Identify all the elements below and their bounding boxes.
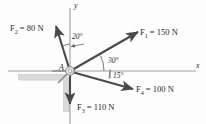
angle-arc-30 xyxy=(101,56,105,72)
force-diagram-canvas: y x A F2 = 80 N F1 = 150 N F4 = 100 N F3… xyxy=(0,0,206,124)
angle-label-30: 30° xyxy=(108,57,119,65)
angle-leader-20 xyxy=(71,44,84,47)
force-f3-magnitude: 110 xyxy=(94,102,106,112)
force-label-f4: F4 = 100 N xyxy=(136,85,174,96)
force-f1-unit: N xyxy=(172,27,178,37)
force-label-f3: F3 = 110 N xyxy=(77,103,114,114)
force-f3-subscript: 3 xyxy=(82,108,85,114)
origin-point-label: A xyxy=(59,64,64,72)
force-f2-equals: = xyxy=(20,23,25,33)
angle-label-15: 15° xyxy=(113,72,124,80)
force-f1-magnitude: 150 xyxy=(157,27,170,37)
force-f1-subscript: 1 xyxy=(145,33,148,39)
y-axis-label: y xyxy=(74,2,78,10)
force-f4-unit: N xyxy=(168,84,174,94)
angle-label-20: 20° xyxy=(72,33,83,41)
force-f4-equals: = xyxy=(146,84,151,94)
vector-f4 xyxy=(72,72,133,89)
force-f2-magnitude: 80 xyxy=(27,23,36,33)
force-f2-unit: N xyxy=(37,23,43,33)
force-f4-magnitude: 100 xyxy=(153,84,166,94)
force-label-f2: F2 = 80 N xyxy=(10,24,44,35)
force-label-f1: F1 = 150 N xyxy=(140,28,178,39)
force-f3-unit: N xyxy=(108,102,114,112)
joint-pin xyxy=(68,69,71,72)
force-f2-subscript: 2 xyxy=(15,29,18,35)
x-axis-label: x xyxy=(196,62,200,70)
vector-f2 xyxy=(56,26,69,68)
force-f3-equals: = xyxy=(87,102,92,112)
force-f1-equals: = xyxy=(150,27,155,37)
force-f4-subscript: 4 xyxy=(141,90,144,96)
